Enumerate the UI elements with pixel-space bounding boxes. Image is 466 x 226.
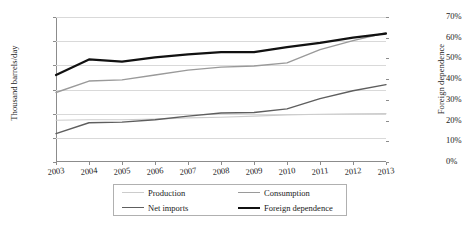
y-axis-right-tick-mark bbox=[386, 58, 389, 59]
x-axis-tick-mark bbox=[320, 162, 321, 165]
x-axis-tick-mark bbox=[155, 162, 156, 165]
y-axis-right-tick-mark bbox=[386, 121, 389, 122]
x-axis-tick-label: 2011 bbox=[307, 165, 332, 178]
legend-item-production[interactable]: Production bbox=[114, 188, 230, 198]
series-lines bbox=[56, 17, 386, 162]
y-axis-right-tick-label: 70% bbox=[446, 11, 466, 21]
x-axis-tick-label: 2007 bbox=[175, 165, 200, 178]
x-axis-tick-mark bbox=[188, 162, 189, 165]
x-axis-tick-mark bbox=[386, 162, 387, 165]
y-axis-right-tick-label: 50% bbox=[446, 52, 466, 62]
series-line-net-imports bbox=[56, 85, 386, 134]
x-axis-tick-label: 2010 bbox=[274, 165, 299, 178]
y-axis-right-tick-mark bbox=[386, 100, 389, 101]
chart-legend: Production Consumption Net imports Forei… bbox=[113, 184, 347, 216]
x-axis-tick-label: 2005 bbox=[109, 165, 134, 178]
x-axis-tick-label: 2006 bbox=[142, 165, 167, 178]
y-axis-right-tick-label: 40% bbox=[446, 73, 466, 83]
x-axis-tick-mark bbox=[221, 162, 222, 165]
x-axis-tick-mark bbox=[89, 162, 90, 165]
y-axis-left-title: Thousand barrels/day bbox=[9, 41, 19, 125]
x-axis-tick-mark bbox=[122, 162, 123, 165]
y-axis-right-tick-label: 20% bbox=[446, 115, 466, 125]
y-axis-right-tick-mark bbox=[386, 17, 389, 18]
plot-area: 020004000600080001000012000 0%10%20%30%4… bbox=[56, 17, 386, 162]
x-axis-tick-label: 2008 bbox=[208, 165, 233, 178]
y-axis-right-tick-mark bbox=[386, 141, 389, 142]
y-axis-right-tick-mark bbox=[386, 38, 389, 39]
series-line-production bbox=[56, 114, 386, 121]
legend-label-consumption: Consumption bbox=[264, 188, 310, 198]
legend-label-net-imports: Net imports bbox=[148, 203, 188, 213]
x-axis-tick-mark bbox=[254, 162, 255, 165]
y-axis-right-tick-label: 30% bbox=[446, 94, 466, 104]
x-axis-tick-label: 2013 bbox=[373, 165, 398, 178]
legend-label-foreign-dependence: Foreign dependence bbox=[264, 203, 333, 213]
legend-item-consumption[interactable]: Consumption bbox=[230, 188, 346, 198]
x-axis-tick-mark bbox=[287, 162, 288, 165]
x-axis-tick-label: 2003 bbox=[43, 165, 68, 178]
legend-swatch-net-imports bbox=[122, 207, 144, 208]
series-line-foreign-dependence bbox=[56, 34, 386, 75]
legend-swatch-foreign-dependence bbox=[238, 207, 260, 209]
y-axis-right-tick-label: 60% bbox=[446, 32, 466, 42]
legend-item-foreign-dependence[interactable]: Foreign dependence bbox=[230, 203, 346, 213]
x-axis-tick-mark bbox=[353, 162, 354, 165]
legend-swatch-production bbox=[122, 192, 144, 193]
x-axis-tick-label: 2009 bbox=[241, 165, 266, 178]
x-axis-tick-label: 2012 bbox=[340, 165, 365, 178]
legend-label-production: Production bbox=[148, 188, 185, 198]
y-axis-right-tick-mark bbox=[386, 79, 389, 80]
y-axis-right-tick-label: 0% bbox=[446, 156, 466, 166]
y-axis-right-tick-label: 10% bbox=[446, 135, 466, 145]
legend-item-net-imports[interactable]: Net imports bbox=[114, 203, 230, 213]
legend-swatch-consumption bbox=[238, 192, 260, 193]
series-line-consumption bbox=[56, 33, 386, 93]
x-axis-tick-mark bbox=[56, 162, 57, 165]
y-axis-right-title: Foreign dependence bbox=[436, 36, 446, 122]
x-axis-tick-label: 2004 bbox=[76, 165, 101, 178]
